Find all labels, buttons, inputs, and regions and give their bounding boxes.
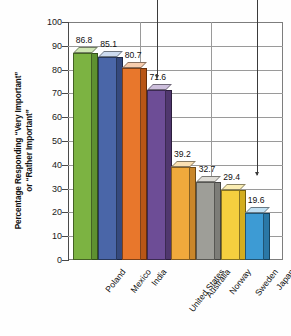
y-tick-label: 70 [32, 88, 62, 98]
bar-face [98, 57, 117, 260]
bar-face [196, 182, 215, 260]
y-tick-label: 40 [32, 159, 62, 169]
bar [73, 47, 92, 260]
y-tick-mark [62, 165, 68, 166]
y-tick-mark [62, 117, 68, 118]
bar-face [73, 53, 92, 260]
y-tick-label: 80 [32, 64, 62, 74]
bar-face [147, 90, 166, 260]
category-label: India [149, 267, 168, 288]
y-tick-mark [62, 236, 68, 237]
y-tick-label: 0 [32, 255, 62, 265]
y-tick-mark [62, 70, 68, 71]
leader-line-to-united-states [157, 0, 158, 77]
y-tick-label: 30 [32, 183, 62, 193]
bar [221, 184, 240, 260]
bar-face [171, 167, 190, 260]
bar [147, 84, 166, 260]
bar [98, 51, 117, 260]
y-tick-mark [62, 141, 68, 142]
category-label: Poland [103, 267, 127, 294]
y-tick-label: 60 [32, 112, 62, 122]
bar-value-label: 19.6 [239, 195, 273, 205]
bar [171, 161, 190, 260]
y-tick-mark [62, 22, 68, 23]
leader-arrow-united-states [155, 75, 159, 79]
y-tick-mark [62, 212, 68, 213]
bar [122, 62, 141, 260]
bar-face [122, 68, 141, 260]
bar [196, 176, 215, 260]
y-tick-label: 100 [32, 17, 62, 27]
leader-arrow-sweden [255, 172, 259, 176]
bar-face [245, 213, 264, 260]
y-tick-label: 50 [32, 136, 62, 146]
bar-face [221, 190, 240, 260]
y-axis-title-line1: Percentage Responding “Very Important” [14, 72, 23, 230]
bar [245, 207, 264, 260]
bar-value-label: 85.1 [92, 39, 126, 49]
bar-value-label: 29.4 [215, 172, 249, 182]
bar-chart: Percentage Responding “Very Important” o… [0, 0, 291, 336]
y-tick-mark [62, 93, 68, 94]
leader-line-to-sweden [257, 0, 258, 175]
bar-value-label: 39.2 [165, 149, 199, 159]
y-tick-mark [62, 46, 68, 47]
y-tick-label: 20 [32, 207, 62, 217]
bar-value-label: 80.7 [116, 50, 150, 60]
y-tick-mark [62, 260, 68, 261]
y-tick-mark [62, 189, 68, 190]
y-tick-label: 90 [32, 40, 62, 50]
bar-side [264, 213, 270, 260]
y-tick-label: 10 [32, 231, 62, 241]
chart-title-cropped [62, 0, 242, 7]
